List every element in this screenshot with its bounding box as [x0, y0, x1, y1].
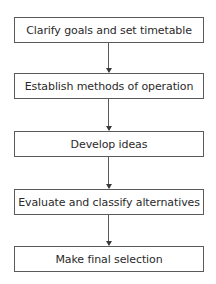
flow-step-label: Clarify goals and set timetable: [26, 24, 192, 37]
flow-step-label: Evaluate and classify alternatives: [18, 196, 200, 209]
flow-step-evaluate-alternatives: Evaluate and classify alternatives: [14, 189, 204, 215]
flow-step-label: Make final selection: [55, 253, 162, 266]
arrow-down-icon: [108, 99, 109, 130]
flow-step-label: Develop ideas: [71, 138, 148, 151]
flow-step-establish-methods: Establish methods of operation: [14, 73, 204, 99]
flow-step-final-selection: Make final selection: [14, 246, 204, 272]
arrow-down-icon: [108, 215, 109, 245]
arrow-down-icon: [108, 43, 109, 72]
arrow-down-icon: [108, 157, 109, 188]
flow-step-develop-ideas: Develop ideas: [14, 131, 204, 157]
flow-step-label: Establish methods of operation: [25, 80, 194, 93]
flow-step-clarify-goals: Clarify goals and set timetable: [14, 17, 204, 43]
